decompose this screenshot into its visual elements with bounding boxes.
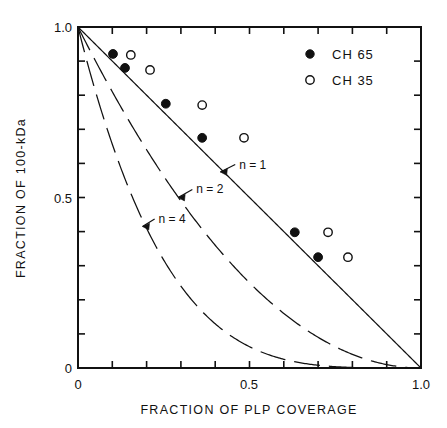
y-ticklabel-0: 0 xyxy=(65,361,72,376)
x-axis-title: FRACTION OF PLP COVERAGE xyxy=(140,403,357,417)
legend-marker-open-circle xyxy=(306,76,314,84)
curve-label-n-4: n = 4 xyxy=(159,212,186,226)
data-points xyxy=(109,50,353,262)
chart-svg: n = 1n = 2n = 4 1.0 0.5 0 0 0.5 1.0 FRAC… xyxy=(0,0,447,428)
data-point-ch-65-2 xyxy=(161,99,170,108)
y-axis-title: FRACTION OF 100-kDa xyxy=(14,118,28,278)
data-point-ch-35-5 xyxy=(344,253,352,261)
figure-container: n = 1n = 2n = 4 1.0 0.5 0 0 0.5 1.0 FRAC… xyxy=(0,0,447,428)
legend-marker-filled-circle xyxy=(306,50,314,58)
x-ticklabel-0: 0 xyxy=(74,377,81,392)
curve-annotations: n = 1n = 2n = 4 xyxy=(142,158,266,230)
data-point-ch-35-2 xyxy=(198,101,206,109)
data-point-ch-35-4 xyxy=(324,228,332,236)
data-point-ch-65-0 xyxy=(109,50,118,59)
y-ticklabel-1.0: 1.0 xyxy=(54,20,72,35)
legend-label-ch-35: CH 35 xyxy=(332,73,374,88)
data-point-ch-35-3 xyxy=(240,134,248,142)
data-point-ch-65-1 xyxy=(121,64,130,73)
data-point-ch-65-5 xyxy=(314,253,323,262)
y-ticklabel-0.5: 0.5 xyxy=(54,191,72,206)
data-point-ch-35-1 xyxy=(146,66,154,74)
x-ticklabel-0.5: 0.5 xyxy=(240,377,258,392)
curve-label-n-2: n = 2 xyxy=(196,182,223,196)
data-point-ch-65-3 xyxy=(198,133,207,142)
x-ticklabel-1.0: 1.0 xyxy=(412,377,430,392)
data-point-ch-65-4 xyxy=(290,228,299,237)
curve-label-n-1: n = 1 xyxy=(239,158,266,172)
legend-label-ch-65: CH 65 xyxy=(332,47,374,62)
legend: CH 65 CH 35 xyxy=(306,47,374,88)
data-point-ch-35-0 xyxy=(127,51,135,59)
